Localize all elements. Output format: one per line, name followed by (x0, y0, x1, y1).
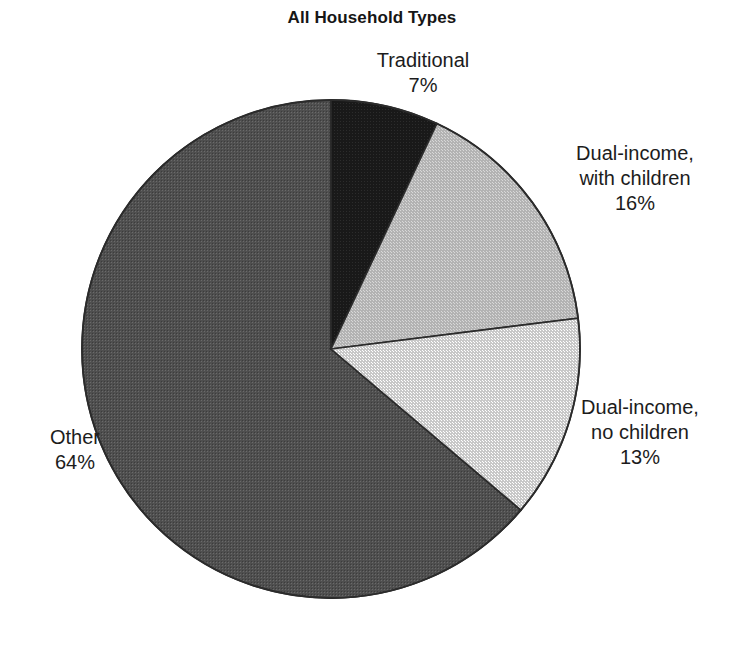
pie-label-dual-income-no-children: Dual-income, no children 13% (540, 395, 740, 470)
pie-chart-figure: All Household Types (0, 0, 744, 645)
pie-slices (82, 100, 580, 598)
pie-label-traditional: Traditional 7% (333, 48, 513, 98)
pie-label-other: Other 64% (10, 425, 140, 475)
pie-label-dual-income-with-children: Dual-income, with children 16% (530, 141, 740, 216)
